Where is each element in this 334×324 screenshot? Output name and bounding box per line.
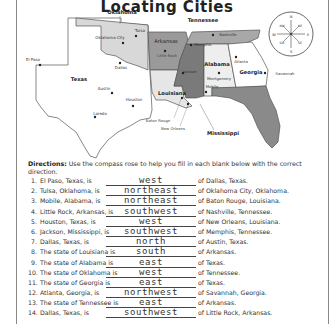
question-stem: El Paso, Texas, is: [40, 176, 92, 186]
compass-se: SE: [298, 41, 302, 45]
compass-w: W: [272, 33, 276, 37]
question-number: 6.: [28, 227, 37, 237]
question-stem: Dallas, Texas, is: [40, 237, 89, 247]
label-tennessee: Tennessee: [188, 17, 219, 23]
question-row: 11.The state of Georgia iseastof Texas.: [28, 278, 328, 288]
question-tail: of Austin, Texas.: [198, 237, 248, 247]
svg-text:Dallas: Dallas: [115, 65, 127, 70]
question-row: 6.Jackson, Mississippi, issouthwestof Me…: [28, 227, 328, 237]
svg-text:El Paso: El Paso: [26, 57, 41, 62]
compass-nw: NW: [279, 24, 284, 28]
question-stem: Mobile, Alabama, is: [40, 196, 100, 206]
svg-text:Oklahoma City: Oklahoma City: [95, 35, 125, 40]
question-tail: of Tennessee.: [198, 268, 240, 278]
compass-s: S: [290, 50, 293, 54]
compass-ne: NE: [298, 24, 302, 28]
compass-sw: SW: [280, 41, 285, 45]
question-number: 3.: [28, 196, 37, 206]
question-tail: of Memphis, Tennessee.: [198, 227, 272, 237]
city-jackson: Jackson: [182, 70, 197, 74]
question-number: 11.: [28, 278, 37, 288]
svg-text:Atlanta: Atlanta: [234, 59, 248, 64]
question-tail: of Dallas, Texas.: [198, 176, 248, 186]
question-tail: of Texas.: [198, 258, 225, 268]
question-number: 7.: [28, 237, 37, 247]
city-el-paso: El Paso: [26, 57, 41, 66]
question-stem: The state of Louisiana is: [40, 247, 115, 257]
directions-text: Use the compass rose to help you fill in…: [28, 160, 302, 175]
directions: Directions: Use the compass rose to help…: [28, 160, 324, 176]
page-title: Locating Cities: [0, 0, 334, 16]
svg-text:Houston: Houston: [126, 97, 143, 102]
question-number: 14.: [28, 308, 37, 318]
answer-blank[interactable]: east: [106, 258, 196, 268]
svg-text:Laredo: Laredo: [93, 111, 107, 116]
question-number: 10.: [28, 268, 37, 278]
question-stem: Jackson, Mississippi, is: [40, 227, 109, 237]
question-row: 3.Mobile, Alabama, isnortheastof Baton R…: [28, 196, 328, 206]
question-stem: Houston, Texas, is: [40, 217, 96, 227]
label-texas: Texas: [71, 76, 87, 82]
label-mississippi: Mississippi: [207, 130, 239, 137]
svg-text:New Orleans: New Orleans: [161, 126, 185, 131]
question-tail: of Arkansas.: [198, 247, 236, 257]
svg-text:Nashville: Nashville: [219, 32, 237, 37]
svg-text:Mobile: Mobile: [206, 84, 219, 89]
question-number: 13.: [28, 298, 37, 308]
question-row: 14.Dallas, Texas, issouthwestof Little R…: [28, 308, 328, 318]
svg-text:Memphis: Memphis: [194, 42, 211, 47]
compass-e: E: [307, 33, 309, 37]
question-number: 9.: [28, 258, 37, 268]
question-number: 8.: [28, 247, 37, 257]
question-stem: The state of Georgia is: [40, 278, 110, 288]
answer-blank[interactable]: southwest: [106, 308, 196, 318]
svg-text:Little Rock: Little Rock: [157, 53, 178, 58]
svg-text:Tulsa: Tulsa: [134, 28, 146, 33]
question-stem: Tulsa, Oklahoma, is: [40, 186, 100, 196]
svg-text:Jackson: Jackson: [182, 70, 197, 74]
question-row: 10.The state of Oklahoma iswestof Tennes…: [28, 268, 328, 278]
directions-label: Directions:: [28, 160, 67, 167]
question-tail: of Oklahoma City, Oklahoma.: [198, 186, 289, 196]
question-number: 12.: [28, 288, 37, 298]
question-number: 1.: [28, 176, 37, 186]
label-alabama: Alabama: [204, 61, 230, 67]
city-savannah: Savannah: [264, 71, 295, 76]
svg-text:Austin: Austin: [98, 86, 111, 91]
question-tail: of Baton Rouge, Louisiana.: [198, 196, 281, 206]
question-row: 2.Tulsa, Oklahoma, isnortheastof Oklahom…: [28, 186, 328, 196]
question-list: 1.El Paso, Texas, iswestof Dallas, Texas…: [28, 176, 328, 319]
question-row: 1.El Paso, Texas, iswestof Dallas, Texas…: [28, 176, 328, 186]
state-florida: [212, 86, 280, 148]
question-stem: Atlanta, Georgia, is: [40, 288, 99, 298]
question-stem: Little Rock, Arkansas, is: [40, 207, 113, 217]
question-stem: Dallas, Texas, is: [40, 308, 89, 318]
question-number: 4.: [28, 207, 37, 217]
answer-blank[interactable]: northeast: [106, 196, 196, 206]
label-louisiana: Louisiana: [158, 90, 186, 96]
label-arkansas: Arkansas: [154, 38, 178, 44]
question-row: 4.Little Rock, Arkansas, issouthwestof N…: [28, 207, 328, 217]
question-tail: of Little Rock, Arkansas.: [198, 308, 272, 318]
question-row: 5.Houston, Texas, iswestof New Orleans, …: [28, 217, 328, 227]
svg-text:Savannah: Savannah: [276, 71, 295, 76]
question-tail: of Arkansas.: [198, 298, 236, 308]
question-stem: The state of Alabama is: [40, 258, 113, 268]
question-row: 12.Atlanta, Georgia, isnorthwestof Savan…: [28, 288, 328, 298]
map: N S E W NW NE SW SE Oklahoma Tennessee T…: [0, 0, 334, 160]
question-number: 5.: [28, 217, 37, 227]
question-row: 9.The state of Alabama iseastof Texas.: [28, 258, 328, 268]
compass-rose-icon: N S E W NW NE SW SE: [269, 12, 313, 56]
question-row: 7.Dallas, Texas, isnorthof Austin, Texas…: [28, 237, 328, 247]
question-tail: of New Orleans, Louisiana.: [198, 217, 280, 227]
question-tail: of Savannah, Georgia.: [198, 288, 267, 298]
question-number: 2.: [28, 186, 37, 196]
svg-text:Baton Rouge: Baton Rouge: [146, 118, 171, 123]
question-row: 8.The state of Louisiana issouthof Arkan…: [28, 247, 328, 257]
label-georgia: Georgia: [240, 69, 263, 76]
question-row: 13.The state of Tennessee iseastof Arkan…: [28, 298, 328, 308]
question-tail: of Texas.: [198, 278, 225, 288]
svg-text:Montgomery: Montgomery: [207, 76, 232, 81]
answer-blank[interactable]: south: [106, 247, 196, 257]
question-tail: of Nashville, Tennessee.: [198, 207, 272, 217]
